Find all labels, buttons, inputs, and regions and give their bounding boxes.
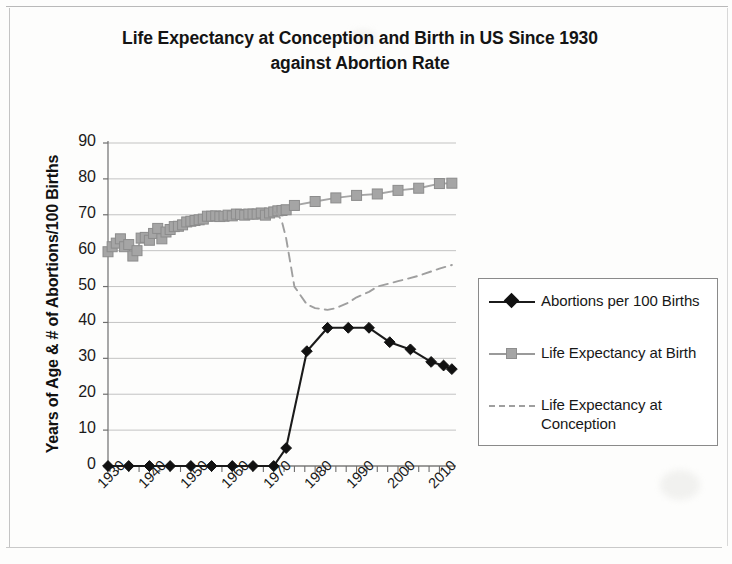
data-point-marker (343, 322, 354, 333)
series-line-2 (274, 212, 452, 310)
y-tick-label: 10 (54, 419, 96, 437)
y-tick-label: 90 (54, 132, 96, 150)
data-point-marker (352, 190, 362, 200)
diamond-marker-icon (504, 293, 520, 309)
y-tick-label: 80 (54, 168, 96, 186)
data-point-marker (372, 189, 382, 199)
data-point-marker (310, 196, 320, 206)
legend-key-abortions (487, 292, 541, 312)
legend-label-life-expectancy-birth: Life Expectancy at Birth (541, 343, 696, 362)
square-marker-icon (506, 348, 517, 359)
data-point-marker (447, 178, 457, 188)
legend-key-life-expectancy-conception (487, 396, 541, 416)
legend-key-life-expectancy-birth (487, 344, 541, 364)
legend-item-abortions[interactable]: Abortions per 100 Births (479, 291, 719, 331)
y-tick-label: 50 (54, 276, 96, 294)
legend-item-life-expectancy-conception[interactable]: Life Expectancy at Conception (479, 395, 719, 435)
data-point-marker (289, 200, 299, 210)
legend-label-abortions: Abortions per 100 Births (541, 291, 700, 310)
data-point-marker (132, 246, 142, 256)
dashed-line-icon (489, 405, 535, 407)
y-tick-label: 20 (54, 383, 96, 401)
data-point-marker (414, 183, 424, 193)
data-point-marker (331, 193, 341, 203)
y-tick-label: 30 (54, 347, 96, 365)
chart-legend: Abortions per 100 Births Life Expectancy… (478, 278, 718, 446)
y-tick-label: 0 (54, 455, 96, 473)
data-point-marker (393, 185, 403, 195)
y-tick-label: 60 (54, 240, 96, 258)
y-tick-label: 40 (54, 311, 96, 329)
data-point-marker (434, 179, 444, 189)
y-tick-label: 70 (54, 204, 96, 222)
legend-label-life-expectancy-conception: Life Expectancy at Conception (541, 395, 691, 433)
data-point-marker (405, 344, 416, 355)
legend-item-life-expectancy-birth[interactable]: Life Expectancy at Birth (479, 343, 719, 383)
series-line-0 (108, 328, 452, 466)
